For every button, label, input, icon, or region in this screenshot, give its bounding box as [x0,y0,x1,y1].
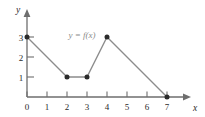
function-label: y = f(x) [67,30,95,40]
x-tick-label-1: 1 [45,102,50,112]
y-axis-arrowhead [24,9,31,17]
x-tick-label-2: 2 [65,102,70,112]
y-tick-label-3: 3 [19,33,24,43]
data-point-0-3 [25,35,30,40]
x-tick-label-0: 0 [25,102,30,112]
x-tick-label-3: 3 [85,102,90,112]
data-point-7-0 [165,95,170,100]
y-tick-label-1: 1 [19,73,24,83]
data-point-2-1 [65,75,70,80]
x-tick-label-7: 7 [165,102,170,112]
data-point-3-1 [85,75,90,80]
x-axis-arrowhead [183,94,191,101]
data-point-4-3 [105,35,110,40]
x-tick-label-6: 6 [145,102,150,112]
x-tick-label-5: 5 [125,102,130,112]
x-axis-label: x [192,103,198,113]
graph-figure: 0 1 2 3 4 5 6 7 1 2 3 y x y = f(x) [0,0,205,117]
function-curve [27,37,167,97]
y-tick-label-2: 2 [19,53,24,63]
plot-canvas: 0 1 2 3 4 5 6 7 1 2 3 y x y = f(x) [0,0,205,117]
y-axis-label: y [15,5,21,15]
x-tick-label-4: 4 [105,102,110,112]
